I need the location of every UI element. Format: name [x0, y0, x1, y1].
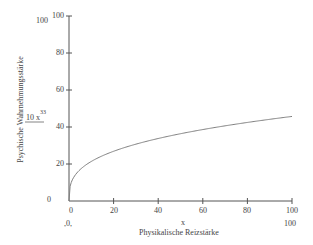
y-tick-60: 60 [40, 85, 64, 94]
x-axis-title: Physikalische Reizstärke [139, 228, 219, 237]
function-label-base: 10 x [26, 113, 40, 122]
x-tick-40: 40 [148, 206, 168, 215]
x-tick-80: 80 [237, 206, 257, 215]
y-axis-title: Psychische Wahrnehmungsstärke [16, 50, 25, 170]
x-variable-label: x [181, 218, 185, 227]
function-label-exponent: 33 [40, 109, 46, 115]
x-tick-0: 0 [61, 206, 81, 215]
x-range-max-label: 100 [284, 219, 296, 228]
y-tick-20: 20 [40, 159, 64, 168]
x-tick-60: 60 [193, 206, 213, 215]
y-tick-40: 40 [40, 122, 64, 131]
x-tick-20: 20 [104, 206, 124, 215]
x-range-min-label: ,0, [64, 219, 72, 228]
data-line [69, 116, 292, 201]
y-range-max-label: 100 [36, 16, 48, 25]
y-range-min-label: 0 [47, 195, 51, 204]
x-tick-100: 100 [282, 206, 302, 215]
y-tick-80: 80 [40, 48, 64, 57]
function-label: 10 x33 [26, 111, 46, 122]
